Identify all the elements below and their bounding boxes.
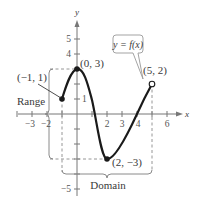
x-axis-arrow-icon — [176, 112, 183, 117]
range-label: Range — [17, 95, 45, 107]
point-label-2-neg3: (2, −3) — [112, 156, 142, 169]
x-axis-label: x — [184, 109, 189, 119]
domain-label: Domain — [90, 179, 126, 191]
function-graph: y = f(x) y x (0, 3) (−1, 1) (2, −3) (5, … — [0, 0, 197, 207]
tick-label-y-neg5: −5 — [61, 184, 71, 194]
tick-label-x-6: 6 — [165, 119, 170, 129]
point-0-3 — [74, 66, 80, 72]
y-axis-label: y — [74, 7, 79, 17]
axes — [18, 20, 183, 196]
point-5-2-open — [149, 81, 155, 87]
tick-label-x-neg3: −3 — [25, 119, 35, 129]
tick-label-x-neg2: −2 — [41, 119, 51, 129]
domain-brace — [62, 170, 152, 178]
tick-label-x-2: 2 — [105, 119, 110, 129]
tick-label-y-5: 5 — [66, 34, 71, 44]
point-2-neg3 — [104, 156, 110, 162]
point-label-0-3: (0, 3) — [80, 57, 104, 70]
point-label-5-2: (5, 2) — [143, 64, 167, 77]
tick-label-y-4: 4 — [66, 49, 71, 59]
tick-label-x-4: 4 — [136, 119, 141, 129]
y-axis-arrow-icon — [75, 20, 80, 27]
point-label-neg1-1: (−1, 1) — [17, 71, 47, 84]
tick-label-x-3: 3 — [120, 119, 125, 129]
function-label: y = f(x) — [112, 39, 144, 51]
tick-label-y-1: 1 — [82, 94, 87, 104]
